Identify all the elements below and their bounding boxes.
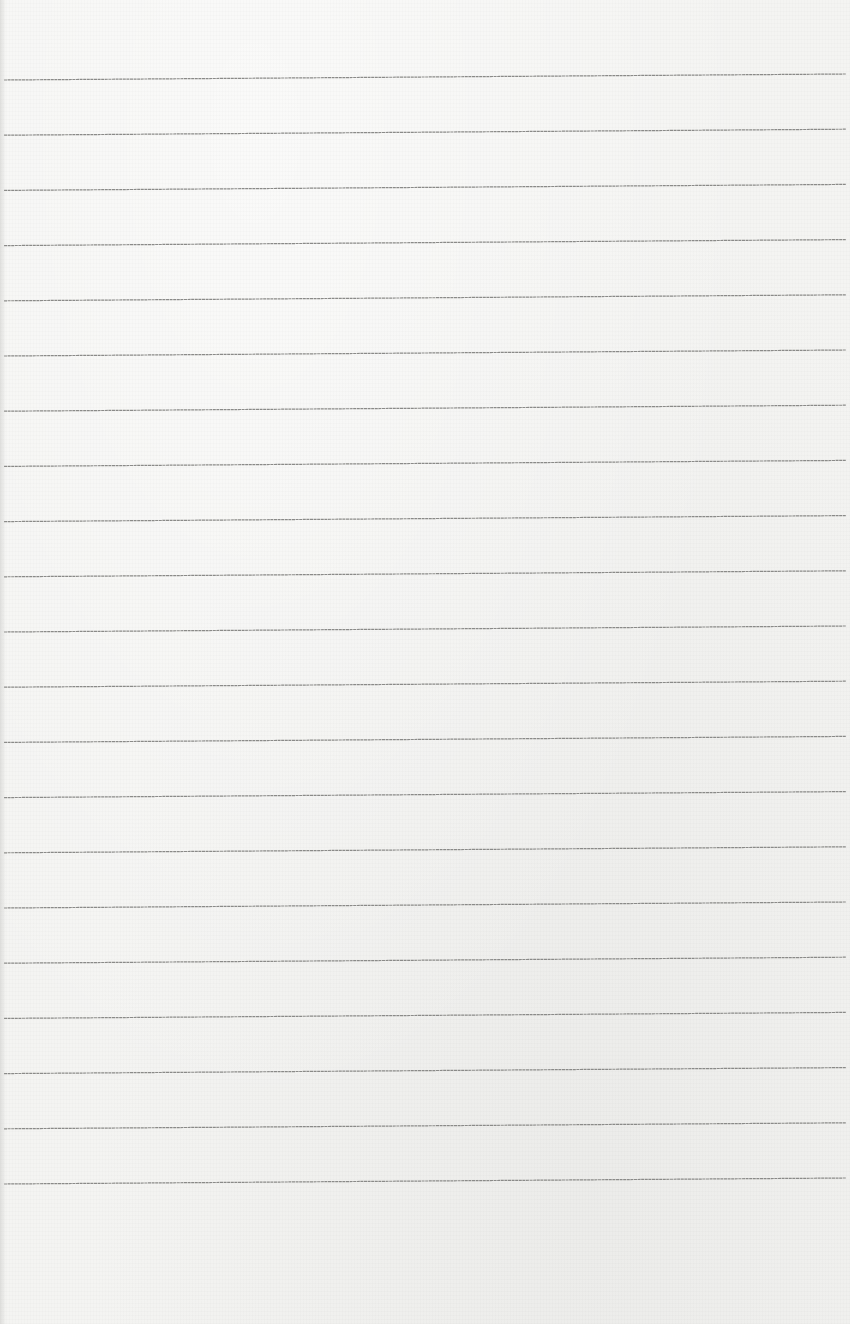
ruled-line xyxy=(4,1123,846,1129)
ruled-line xyxy=(4,516,846,522)
ruled-line xyxy=(4,792,846,798)
ruled-line xyxy=(4,74,846,80)
ruled-line xyxy=(4,350,846,356)
ruled-line xyxy=(4,405,846,411)
ruled-line xyxy=(4,1178,846,1184)
lined-paper-sheet xyxy=(0,0,850,1324)
ruled-line xyxy=(4,736,846,742)
ruled-line xyxy=(4,1068,846,1074)
ruled-line xyxy=(4,902,846,908)
ruled-line xyxy=(4,1012,846,1018)
ruled-line xyxy=(4,571,846,577)
ruled-line xyxy=(4,460,846,466)
ruled-line xyxy=(4,681,846,687)
ruled-lines xyxy=(0,0,850,1324)
ruled-line xyxy=(4,626,846,632)
ruled-line xyxy=(4,240,846,246)
ruled-line xyxy=(4,129,846,135)
ruled-line xyxy=(4,184,846,190)
ruled-line xyxy=(4,295,846,301)
ruled-line xyxy=(4,957,846,963)
ruled-line xyxy=(4,847,846,853)
